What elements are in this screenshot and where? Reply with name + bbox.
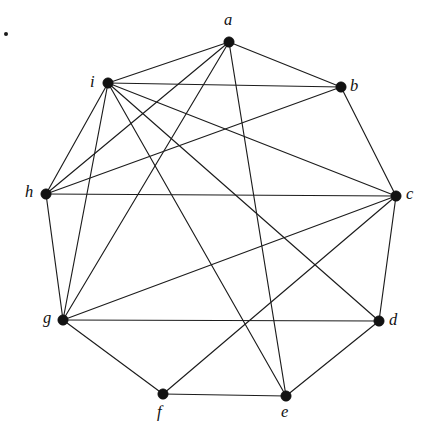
graph-edge [46, 194, 396, 196]
vertex-label-e: e [281, 404, 288, 421]
graph-edge [341, 87, 396, 196]
graph-edge [286, 321, 379, 396]
graph-vertex-g[interactable] [58, 315, 68, 325]
vertex-label-d: d [389, 312, 397, 329]
graph-vertex-d[interactable] [374, 316, 384, 326]
vertex-label-a: a [224, 12, 232, 29]
graph-edge [108, 83, 341, 87]
graph-vertex-h[interactable] [41, 189, 51, 199]
vertex-label-h: h [25, 184, 33, 201]
graph-edge [163, 196, 396, 394]
graph-edge [46, 83, 108, 194]
graph-vertex-f[interactable] [158, 389, 168, 399]
graph-edge [108, 83, 379, 321]
vertex-label-g: g [43, 310, 51, 327]
graph-edge [63, 320, 163, 394]
vertex-label-b: b [350, 78, 358, 95]
graph-edge [63, 320, 379, 321]
graph-figure: abcdefghi [0, 0, 429, 433]
graph-vertex-b[interactable] [336, 82, 346, 92]
graph-vertex-i[interactable] [103, 78, 113, 88]
graph-vertex-e[interactable] [281, 391, 291, 401]
graph-edge [108, 83, 286, 396]
graph-edge [108, 42, 229, 83]
graph-canvas [0, 0, 429, 433]
graph-edge [163, 394, 286, 396]
graph-vertex-c[interactable] [391, 191, 401, 201]
graph-edge [379, 196, 396, 321]
graph-edge [46, 42, 229, 194]
edge-layer [46, 42, 396, 396]
graph-edge [108, 83, 396, 196]
vertex-label-f: f [157, 404, 162, 421]
graph-vertex-a[interactable] [224, 37, 234, 47]
graph-edge [229, 42, 286, 396]
vertex-label-i: i [90, 74, 95, 91]
graph-edge [63, 83, 108, 320]
vertex-label-c: c [406, 186, 413, 203]
graph-edge [46, 194, 63, 320]
graph-edge [229, 42, 341, 87]
graph-edge [63, 196, 396, 320]
